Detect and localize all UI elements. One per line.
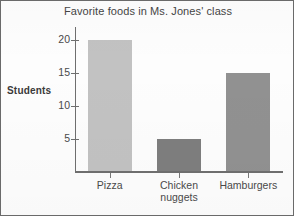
bar	[226, 73, 270, 172]
x-tick-mark	[248, 173, 249, 178]
bar-chart-figure: Favorite foods in Ms. Jones' class Stude…	[0, 0, 294, 216]
x-tick-mark	[179, 173, 180, 178]
y-tick-mark	[71, 73, 79, 74]
bar	[157, 139, 201, 172]
chart-title: Favorite foods in Ms. Jones' class	[1, 5, 294, 17]
y-tick-label: 5	[64, 132, 70, 144]
y-tick-label: 15	[58, 66, 70, 78]
plot-area: 5101520	[75, 27, 283, 172]
x-tick-mark	[110, 173, 111, 178]
bar	[88, 40, 132, 172]
y-tick-mark	[71, 40, 79, 41]
y-axis-label: Students	[7, 85, 51, 96]
y-axis-line	[75, 27, 76, 172]
y-tick-label: 10	[58, 99, 70, 111]
y-tick-label: 20	[58, 33, 70, 45]
y-tick-mark	[71, 139, 79, 140]
x-axis-label: Hamburgers	[203, 179, 293, 191]
y-tick-mark	[71, 106, 79, 107]
